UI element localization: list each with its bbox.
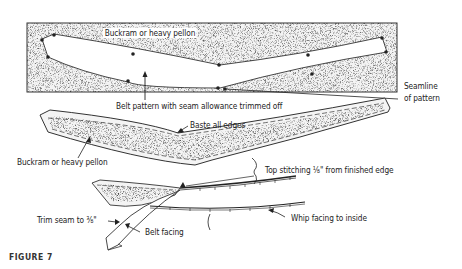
label-buckram-top: Buckram or heavy pellon bbox=[103, 28, 197, 38]
belt-construction-diagram bbox=[0, 0, 462, 269]
belt-facing-assembly bbox=[92, 176, 305, 250]
label-seamline: Seamline bbox=[404, 81, 438, 91]
label-of-pattern: of pattern bbox=[404, 93, 440, 103]
label-belt-facing: Belt facing bbox=[145, 227, 184, 237]
label-top-stitching: Top stitching ⅛" from finished edge bbox=[265, 165, 393, 175]
label-buckram-middle: Buckram or heavy pellon bbox=[17, 157, 108, 167]
label-whip-facing: Whip facing to inside bbox=[291, 213, 367, 223]
label-trim-seam: Trim seam to ⅜" bbox=[37, 215, 97, 225]
label-baste-all-edges: Baste all edges bbox=[190, 120, 245, 130]
buckram-panel bbox=[27, 23, 398, 100]
figure-caption: FIGURE 7 bbox=[9, 252, 53, 262]
label-belt-pattern: Belt pattern with seam allowance trimmed… bbox=[116, 101, 282, 111]
